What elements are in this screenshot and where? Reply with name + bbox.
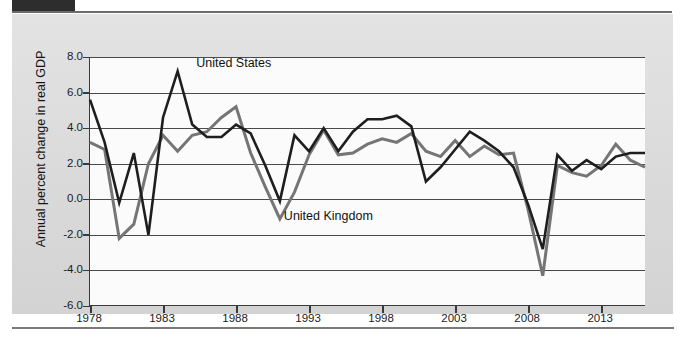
series-label-united-states: United States	[196, 56, 271, 70]
x-axis-tick-label: 1983	[149, 313, 175, 325]
x-axis-tick-label: 2003	[441, 313, 467, 325]
y-axis-tick-label: 6.0	[67, 87, 83, 99]
y-axis-tick	[83, 128, 90, 130]
x-axis-tick-label: 2013	[587, 313, 613, 325]
x-axis-tick-label: 1993	[295, 313, 321, 325]
bottom-divider-rule	[12, 327, 674, 329]
x-axis-tick-label: 2008	[514, 313, 540, 325]
series-lines-svg	[90, 57, 645, 306]
top-tab-marker	[12, 0, 75, 11]
plot-area: United States United Kingdom	[89, 57, 645, 306]
y-axis-tick	[83, 92, 90, 94]
y-axis-tick-label: 4.0	[67, 122, 83, 134]
chart-figure-panel: Annual percent change in real GDP 8.06.0…	[12, 14, 673, 314]
top-divider-rule	[12, 11, 672, 13]
series-label-united-kingdom: United Kingdom	[284, 209, 373, 223]
y-axis-tick-label: 0.0	[67, 193, 83, 205]
y-axis-tick	[83, 270, 90, 272]
x-axis-tick-label: 1988	[222, 313, 248, 325]
y-axis-tick-label: -2.0	[63, 229, 83, 241]
y-axis-tick-label: -6.0	[63, 300, 83, 312]
y-axis-tick	[83, 306, 90, 308]
y-axis-tick	[83, 199, 90, 201]
y-axis-tick-label: 8.0	[67, 51, 83, 63]
x-axis-tick-label: 1978	[76, 313, 102, 325]
figure-root: Annual percent change in real GDP 8.06.0…	[0, 0, 690, 339]
y-axis-tick-labels: 8.06.04.02.00.0-2.0-4.0-6.0	[45, 57, 83, 306]
y-axis-tick-label: 2.0	[67, 158, 83, 170]
x-axis-tick-label: 1998	[368, 313, 394, 325]
line-united-kingdom	[90, 107, 645, 276]
y-axis-tick	[83, 163, 90, 165]
y-axis-tick	[83, 57, 90, 59]
y-axis-tick	[83, 234, 90, 236]
y-axis-tick-label: -4.0	[63, 264, 83, 276]
